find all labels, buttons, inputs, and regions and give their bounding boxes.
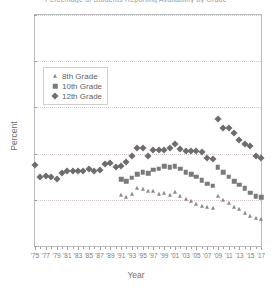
x-tick-mark bbox=[213, 247, 214, 249]
x-tick-mark bbox=[137, 247, 138, 249]
data-point bbox=[141, 187, 145, 191]
data-point bbox=[209, 156, 216, 163]
x-tick-mark bbox=[159, 247, 160, 249]
data-point bbox=[247, 142, 254, 149]
chart-legend: 8th Grade10th Grade12th Grade bbox=[43, 67, 108, 105]
x-tick-mark bbox=[126, 247, 127, 249]
data-point bbox=[53, 175, 60, 182]
legend-marker-triangle-icon bbox=[48, 71, 62, 81]
data-point bbox=[157, 166, 162, 171]
x-tick-mark bbox=[175, 247, 176, 250]
legend-label: 8th Grade bbox=[62, 72, 98, 81]
data-point bbox=[139, 144, 146, 151]
gridline bbox=[35, 61, 261, 62]
data-point bbox=[119, 177, 124, 182]
data-point bbox=[194, 174, 199, 179]
data-point bbox=[248, 214, 252, 218]
data-point bbox=[123, 158, 130, 165]
legend-label: 12th Grade bbox=[62, 92, 102, 101]
data-point bbox=[194, 202, 198, 206]
data-point bbox=[198, 149, 205, 156]
x-tick-mark bbox=[153, 247, 154, 250]
data-point bbox=[253, 194, 258, 199]
data-point bbox=[216, 194, 220, 198]
x-tick-mark bbox=[186, 247, 187, 250]
x-tick-mark bbox=[78, 247, 79, 250]
data-point bbox=[227, 201, 231, 205]
data-point bbox=[173, 164, 178, 169]
plot-area bbox=[34, 14, 262, 247]
data-point bbox=[211, 206, 215, 210]
data-point bbox=[183, 170, 188, 175]
x-tick-mark bbox=[170, 247, 171, 249]
x-tick-mark bbox=[89, 247, 90, 250]
chart-title: Percentage of Students Reporting Availab… bbox=[0, 0, 272, 3]
x-tick-mark bbox=[121, 247, 122, 250]
data-point bbox=[226, 174, 231, 179]
data-point bbox=[178, 166, 183, 171]
y-axis-label: Percent bbox=[9, 96, 19, 176]
x-tick-mark bbox=[51, 247, 52, 249]
data-point bbox=[146, 171, 151, 176]
data-point bbox=[200, 178, 205, 183]
data-point bbox=[31, 162, 38, 169]
data-point bbox=[135, 186, 139, 190]
data-point bbox=[178, 194, 182, 198]
data-point bbox=[130, 176, 135, 181]
data-point bbox=[162, 164, 167, 169]
data-point bbox=[167, 165, 172, 170]
data-point bbox=[205, 181, 210, 186]
x-tick-mark bbox=[46, 247, 47, 250]
gridline bbox=[35, 15, 261, 16]
data-point bbox=[96, 166, 103, 173]
data-point bbox=[124, 179, 129, 184]
data-point bbox=[210, 184, 215, 189]
data-point bbox=[243, 210, 247, 214]
data-point bbox=[248, 191, 253, 196]
x-tick-mark bbox=[256, 247, 257, 249]
data-point bbox=[232, 205, 236, 209]
data-point bbox=[221, 198, 225, 202]
x-tick-mark bbox=[207, 247, 208, 250]
data-point bbox=[237, 183, 242, 188]
data-point bbox=[221, 170, 226, 175]
legend-marker-diamond-icon bbox=[48, 91, 62, 101]
data-point bbox=[189, 199, 193, 203]
data-point bbox=[151, 189, 155, 193]
legend-item: 10th Grade bbox=[48, 81, 102, 91]
x-tick-mark bbox=[261, 247, 262, 250]
data-point bbox=[237, 207, 241, 211]
x-tick-mark bbox=[239, 247, 240, 250]
x-tick-mark bbox=[202, 247, 203, 249]
x-tick-mark bbox=[250, 247, 251, 250]
data-point bbox=[124, 194, 128, 198]
data-point bbox=[140, 170, 145, 175]
data-point bbox=[151, 168, 156, 173]
y-tick-mark bbox=[34, 61, 37, 62]
x-tick-mark bbox=[245, 247, 246, 249]
data-point bbox=[232, 179, 237, 184]
data-point bbox=[259, 217, 263, 221]
data-point bbox=[259, 195, 264, 200]
x-tick-mark bbox=[132, 247, 133, 250]
x-tick-mark bbox=[229, 247, 230, 250]
data-point bbox=[257, 155, 264, 162]
y-tick-mark bbox=[34, 15, 37, 16]
x-tick-mark bbox=[223, 247, 224, 249]
y-tick-mark bbox=[34, 107, 37, 108]
x-tick-mark bbox=[164, 247, 165, 250]
x-tick-mark bbox=[218, 247, 219, 250]
data-point bbox=[184, 196, 188, 200]
data-point bbox=[168, 193, 172, 197]
y-tick-mark bbox=[34, 154, 37, 155]
data-point bbox=[162, 191, 166, 195]
legend-item: 8th Grade bbox=[48, 71, 102, 81]
data-point bbox=[243, 186, 248, 191]
data-point bbox=[173, 190, 177, 194]
data-point bbox=[119, 193, 123, 197]
data-point bbox=[135, 172, 140, 177]
x-tick-mark bbox=[191, 247, 192, 249]
y-tick-mark bbox=[34, 200, 37, 201]
x-tick-mark bbox=[35, 247, 36, 250]
x-tick-mark bbox=[143, 247, 144, 250]
